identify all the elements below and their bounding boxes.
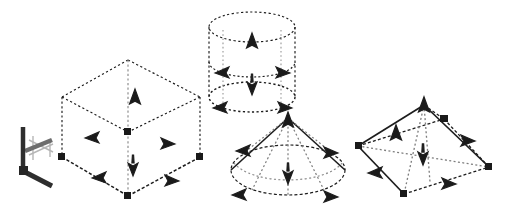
diagram-canvas — [0, 0, 515, 221]
axis-origin — [19, 166, 28, 175]
background — [0, 0, 515, 221]
